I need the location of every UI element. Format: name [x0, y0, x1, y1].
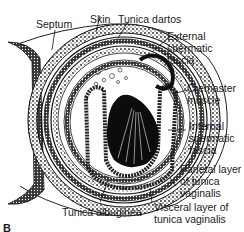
label-visceral-layer: Visceral layer of tunica vaginalis	[154, 201, 229, 225]
label-tunica-dartos: Tunica dartos	[118, 13, 181, 25]
label-septum: Septum	[36, 18, 72, 30]
panel-letter: B	[3, 222, 11, 232]
label-cremaster-muscle: Cremaster muscle	[187, 82, 236, 106]
scrotum-cross-section-diagram: Septum Skin Tunica dartos External sperm…	[0, 0, 244, 232]
label-internal-spermatic-fascia: Internal spermatic fascia	[189, 120, 235, 156]
label-skin: Skin	[90, 13, 110, 25]
label-tunica-albuginea: Tunica albuginea	[62, 206, 142, 218]
label-parietal-layer: Parietal layer of tunica vaginalis	[180, 163, 241, 199]
label-external-spermatic-fascia: External spermatic fascia	[167, 30, 213, 66]
